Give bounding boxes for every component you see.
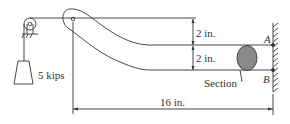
section-leader xyxy=(240,70,242,81)
point-a-marker xyxy=(272,44,275,47)
load-label: 5 kips xyxy=(38,69,65,81)
weight-icon xyxy=(14,61,33,84)
upper-dim-label: 2 in. xyxy=(196,27,216,39)
section-shape xyxy=(237,46,257,71)
beam-upper-edge xyxy=(63,9,273,45)
curved-beam-diagram: 5 kips 2 in. 2 in. Section A B 16 in. xyxy=(0,0,290,124)
point-a-label: A xyxy=(263,33,271,45)
point-b-marker xyxy=(272,69,275,72)
fixed-wall-icon xyxy=(273,23,278,92)
span-dim-label: 16 in. xyxy=(160,96,185,108)
section-label: Section xyxy=(204,77,237,89)
point-b-label: B xyxy=(263,73,270,85)
lower-dim-label: 2 in. xyxy=(196,52,216,64)
